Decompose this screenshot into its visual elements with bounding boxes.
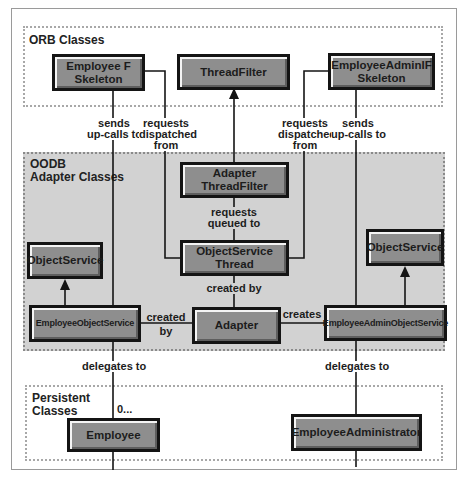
orb-classes-label: ORB Classes [29,34,104,47]
class-adapter[interactable]: Adapter [192,307,281,344]
class-employee-f-skeleton[interactable]: Employee F Skeleton [52,54,145,91]
multiplicity-label: 0... [117,404,132,415]
class-object-service-left[interactable]: ObjectService [27,242,103,279]
requests-queued-label: requests queued to [206,207,262,229]
sends-upcalls-label-right: sends up-calls to [331,118,385,140]
requests-dispatched-label-left: requests dispatched from [139,118,193,151]
class-adapter-thread-filter[interactable]: Adapter ThreadFilter [180,162,289,198]
class-thread-filter[interactable]: ThreadFilter [177,54,290,90]
created-by-thread-label: created by [202,283,266,294]
class-employee-admin-if-skeleton[interactable]: EmployeeAdminIF Skeleton [328,53,435,90]
class-employee-object-service[interactable]: EmployeeObjectService [29,305,141,342]
persistent-classes-label: Persistent Classes [32,392,90,418]
sends-upcalls-label-left: sends up-calls to [87,118,141,140]
delegates-to-label-left: delegates to [82,361,146,372]
requests-dispatched-label-right: requests dispatched from [278,118,332,151]
class-object-service-thread[interactable]: ObjectService Thread [180,240,289,276]
delegates-to-label-right: delegates to [325,361,389,372]
class-employee-administrator[interactable]: EmployeeAdministrator [291,414,422,451]
oodb-adapter-classes-label: OODB Adapter Classes [30,158,124,184]
creates-label: creates [282,309,322,320]
class-employee-admin-object-service[interactable]: EmployeeAdminObjectService [324,305,447,341]
class-employee[interactable]: Employee [67,418,160,452]
created-by-label: created by [145,312,187,337]
class-object-service-right[interactable]: ObjectService [366,229,444,266]
